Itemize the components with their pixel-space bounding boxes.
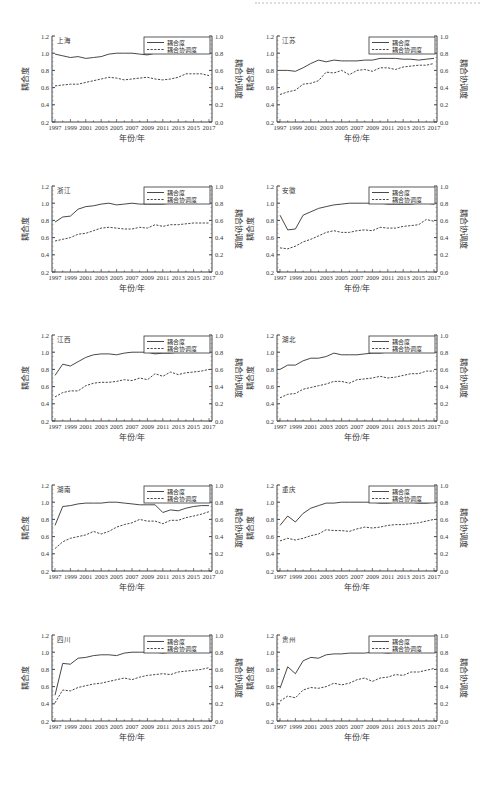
y2-tick-label: 0.6 (440, 67, 449, 74)
y-tick-label: 1.2 (266, 33, 274, 40)
y2-tick-label: 0.4 (440, 383, 449, 390)
x-tick-label: 2003 (95, 124, 108, 131)
coupling-degree-line (55, 352, 209, 375)
x-tick-label: 2003 (320, 274, 333, 281)
x-tick-label: 2009 (366, 573, 379, 580)
y-tick-label: 1.2 (41, 332, 49, 339)
y2-tick-label: 0.6 (440, 666, 449, 673)
x-tick-label: 1999 (64, 723, 77, 730)
x-tick-label: 2009 (366, 723, 379, 730)
y-tick-label: 1.2 (266, 332, 274, 339)
x-tick-label: 2003 (320, 423, 333, 430)
y2-tick-label: 0.2 (440, 101, 448, 108)
x-tick-label: 2003 (95, 423, 108, 430)
x-tick-label: 2007 (351, 124, 365, 131)
x-tick-label: 2001 (304, 124, 317, 131)
chart-panel: 0.20.40.60.81.01.20.00.20.40.60.81.01997… (237, 327, 478, 477)
y2-tick-label: 1.0 (215, 482, 223, 489)
x-tick-label: 1997 (49, 124, 63, 131)
y-tick-label: 0.4 (41, 251, 50, 258)
coupling-degree-line (55, 652, 209, 695)
y2-tick-label: 0.4 (215, 234, 224, 241)
y2-tick-label: 0.6 (440, 516, 449, 523)
y2-tick-label: 0.0 (440, 119, 448, 126)
y2-tick-label: 1.0 (440, 632, 448, 639)
chart-title: 江苏 (282, 36, 296, 45)
x-tick-label: 1997 (49, 423, 63, 430)
x-tick-label: 2011 (381, 573, 394, 580)
x-tick-label: 2001 (304, 274, 317, 281)
x-tick-label: 1999 (64, 423, 77, 430)
y2-axis-title: 耦合协调度 (459, 658, 469, 698)
y-tick-label: 0.4 (266, 550, 275, 557)
x-tick-label: 2011 (156, 124, 169, 131)
y-tick-label: 0.6 (41, 683, 50, 690)
x-tick-label: 2013 (172, 723, 185, 730)
y2-tick-label: 0.2 (215, 400, 223, 407)
x-tick-label: 2005 (335, 274, 348, 281)
x-tick-label: 2009 (366, 124, 379, 131)
y-tick-label: 0.8 (266, 516, 274, 523)
y2-tick-label: 0.2 (440, 400, 448, 407)
y-tick-label: 0.6 (41, 84, 50, 91)
y2-tick-label: 0.6 (215, 516, 224, 523)
y2-tick-label: 0.4 (440, 234, 449, 241)
x-tick-label: 2013 (397, 723, 410, 730)
coupling-degree-line (280, 502, 434, 525)
y2-tick-label: 1.0 (440, 332, 448, 339)
x-tick-label: 2009 (141, 124, 154, 131)
x-tick-label: 1997 (274, 573, 288, 580)
line-chart: 0.20.40.60.81.01.20.00.20.40.60.81.01997… (12, 178, 253, 328)
y2-tick-label: 0.8 (440, 50, 448, 57)
x-tick-label: 2001 (79, 573, 92, 580)
x-axis-title: 年份/年 (344, 432, 370, 442)
y2-tick-label: 0.0 (215, 119, 223, 126)
x-tick-label: 2009 (141, 423, 154, 430)
legend-label: 耦合度 (392, 488, 410, 496)
coupling-degree-line (280, 203, 434, 230)
y2-tick-label: 0.0 (440, 418, 448, 425)
chart-title: 安徽 (282, 186, 296, 195)
line-chart: 0.20.40.60.81.01.20.00.20.40.60.81.01997… (237, 627, 478, 777)
x-tick-label: 2011 (381, 423, 394, 430)
line-chart: 0.20.40.60.81.01.20.00.20.40.60.81.01997… (237, 28, 478, 178)
x-tick-label: 2017 (428, 423, 442, 430)
y-tick-label: 0.8 (266, 666, 274, 673)
x-axis-title: 年份/年 (119, 732, 145, 742)
x-tick-label: 2011 (381, 124, 394, 131)
y2-tick-label: 0.4 (215, 383, 224, 390)
y-tick-label: 1.0 (266, 649, 274, 656)
x-tick-label: 2001 (79, 423, 92, 430)
y2-tick-label: 0.8 (215, 499, 223, 506)
y2-tick-label: 0.0 (440, 718, 448, 725)
y2-tick-label: 1.0 (215, 332, 223, 339)
y2-tick-label: 0.0 (215, 568, 223, 575)
x-axis-title: 年份/年 (344, 133, 370, 143)
x-tick-label: 2001 (304, 423, 317, 430)
x-tick-label: 2015 (412, 573, 425, 580)
chart-panel: 0.20.40.60.81.01.20.00.20.40.60.81.01997… (237, 178, 478, 328)
y2-tick-label: 1.0 (215, 632, 223, 639)
y2-tick-label: 0.8 (215, 349, 223, 356)
y2-tick-label: 0.4 (440, 533, 449, 540)
x-tick-label: 1999 (289, 573, 302, 580)
x-tick-label: 2011 (156, 723, 169, 730)
y2-tick-label: 0.8 (440, 200, 448, 207)
legend-label: 耦合协调度 (167, 46, 197, 54)
x-tick-label: 1997 (49, 573, 63, 580)
chart-panel: 0.20.40.60.81.01.20.00.20.40.60.81.01997… (237, 28, 478, 178)
x-tick-label: 2003 (320, 723, 333, 730)
y2-tick-label: 0.6 (215, 67, 224, 74)
y2-axis-title: 耦合协调度 (459, 209, 469, 249)
y-tick-label: 1.0 (41, 50, 49, 57)
x-tick-label: 1997 (49, 723, 63, 730)
chart-panel: 0.20.40.60.81.01.20.00.20.40.60.81.01997… (237, 627, 478, 777)
x-tick-label: 2007 (126, 573, 140, 580)
y2-tick-label: 0.0 (215, 418, 223, 425)
y-tick-label: 1.0 (266, 50, 274, 57)
x-tick-label: 1999 (289, 274, 302, 281)
x-tick-label: 2009 (141, 723, 154, 730)
y2-tick-label: 0.2 (215, 101, 223, 108)
y-axis-title: 耦合度 (20, 217, 30, 241)
y2-tick-label: 0.8 (215, 50, 223, 57)
